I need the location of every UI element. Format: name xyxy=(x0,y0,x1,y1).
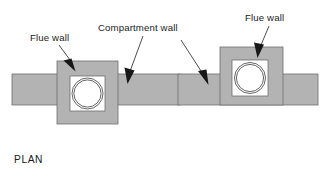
flue-aperture-right xyxy=(232,60,268,96)
label-flue-wall-right: Flue wall xyxy=(245,12,284,23)
label-compartment-wall: Compartment wall xyxy=(98,22,178,33)
leader-line-compartment-wall-right xyxy=(181,40,203,74)
leader-line-flue-wall-right xyxy=(261,26,269,45)
plan-diagram: Flue wall Compartment wall Flue wall PLA… xyxy=(0,0,329,186)
right-assembly xyxy=(178,47,318,105)
leader-line-compartment-wall-left xyxy=(131,36,144,70)
flue-aperture-left xyxy=(70,76,105,111)
plan-diagram-canvas: Flue wall Compartment wall Flue wall PLA… xyxy=(0,0,329,186)
view-label-plan: PLAN xyxy=(14,154,43,165)
label-flue-wall-left: Flue wall xyxy=(30,32,69,43)
left-assembly xyxy=(12,61,180,124)
